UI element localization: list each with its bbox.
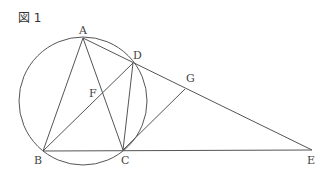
point-label-c: C xyxy=(121,154,129,167)
point-label-g: G xyxy=(186,72,195,85)
geometry-figure: ABCDEFG xyxy=(0,0,329,177)
segment-AB xyxy=(43,38,83,151)
point-label-b: B xyxy=(34,154,42,167)
point-label-e: E xyxy=(307,154,315,167)
point-label-f: F xyxy=(89,87,97,100)
segments xyxy=(43,38,312,151)
point-label-a: A xyxy=(78,24,88,37)
segment-BD xyxy=(43,63,133,151)
point-labels: ABCDEFG xyxy=(34,24,315,167)
segment-CD xyxy=(123,63,133,150)
segment-BE xyxy=(43,150,312,151)
segment-CG xyxy=(123,89,185,150)
point-label-d: D xyxy=(133,49,142,62)
